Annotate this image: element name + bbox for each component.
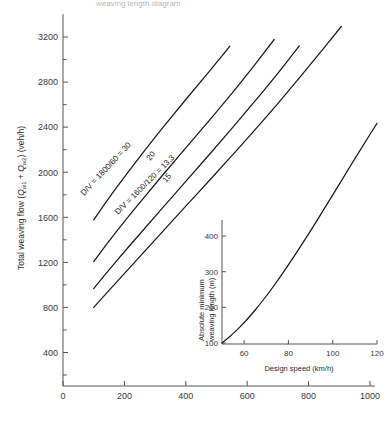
y-axis-title-part1: Total weaving flow (: [16, 196, 26, 270]
y-tick-label: 2800: [38, 77, 58, 87]
x-tick-label: 200: [117, 391, 132, 401]
y-tick-label: 2400: [38, 122, 58, 132]
inset-x-axis-title: Design speed (km/h): [264, 364, 334, 373]
x-tick-label: 600: [240, 391, 255, 401]
inset-x-tick-label: 100: [326, 349, 340, 358]
inset-curve: [222, 123, 377, 343]
y-tick-label: 400: [43, 348, 58, 358]
main-curves-group: [94, 27, 342, 308]
y-tick-label: 3200: [38, 32, 58, 42]
weaving-length-figure: weaving length diagram 3200 2800 2400 20…: [0, 0, 392, 426]
inset-y-axis-title-line1: Absolute minimum: [197, 279, 206, 341]
x-tick-label: 1000: [360, 391, 380, 401]
chart-svg: weaving length diagram 3200 2800 2400 20…: [0, 0, 392, 426]
x-tick-label: 0: [60, 391, 65, 401]
y-tick-label: 2000: [38, 168, 58, 178]
curve-dv-15: [94, 46, 300, 289]
curve-dv-13-3: [94, 27, 342, 308]
inset-y-axis-title-line2: weaving length (m): [207, 277, 216, 342]
y-tick-label: 1200: [38, 258, 58, 268]
inset-x-tick-label: 80: [284, 349, 293, 358]
main-x-ticks: 0 200 400 600 800 1000: [60, 381, 380, 401]
x-tick-label: 400: [178, 391, 193, 401]
inset-x-ticks: 60 80 100 120: [240, 340, 385, 358]
y-tick-label: 1600: [38, 213, 58, 223]
inset-chart: 400 300 200 100 60 80 100 120: [0, 0, 384, 373]
inset-x-tick-label: 60: [240, 349, 249, 358]
curve-dv-30: [94, 46, 230, 220]
y-tick-label: 800: [43, 303, 58, 313]
inset-x-tick-label: 120: [370, 349, 384, 358]
curve-label-dv-20: 20: [145, 149, 158, 162]
x-tick-label: 800: [301, 391, 316, 401]
main-y-axis-title: Total weaving flow (Qw1 + Qw2) (veh/h): [16, 126, 27, 270]
inset-y-tick-label: 400: [205, 232, 219, 241]
curve-label-dv-30: D/V = 1800/60 = 30: [79, 140, 133, 197]
clipped-header-text: weaving length diagram: [95, 0, 181, 8]
inset-y-tick-label: 300: [205, 268, 219, 277]
